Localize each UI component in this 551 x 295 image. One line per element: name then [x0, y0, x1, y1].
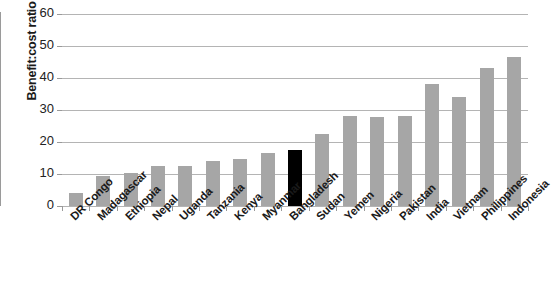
- gridline: [62, 78, 528, 79]
- y-axis-tick-mark: [57, 174, 62, 175]
- bar-vietnam: [452, 97, 466, 206]
- bar-nigeria: [370, 117, 384, 206]
- y-axis-line: [0, 12, 1, 206]
- x-axis-tick-mark: [473, 206, 474, 211]
- x-axis-tick-mark: [172, 206, 173, 211]
- x-axis-tick-mark: [117, 206, 118, 211]
- x-axis-tick-mark: [418, 206, 419, 211]
- x-axis-tick-mark: [254, 206, 255, 211]
- y-axis-tick-mark: [57, 46, 62, 47]
- y-axis-tick-label: 30: [14, 102, 54, 115]
- x-axis-tick-mark: [364, 206, 365, 211]
- y-axis-tick-mark: [57, 14, 62, 15]
- x-axis-tick-mark: [281, 206, 282, 211]
- y-axis-tick-mark: [57, 110, 62, 111]
- bar-madagascar: [96, 176, 110, 206]
- bar-ethiopia: [124, 173, 138, 206]
- x-axis-tick-mark: [89, 206, 90, 211]
- bar-myanmar: [261, 153, 275, 206]
- x-axis-tick-mark: [336, 206, 337, 211]
- y-axis-tick-label: 0: [14, 198, 54, 211]
- bar-sudan: [315, 134, 329, 206]
- x-axis-tick-mark: [199, 206, 200, 211]
- x-axis-tick-mark: [528, 206, 529, 211]
- gridline: [62, 206, 528, 207]
- bar-philippines: [480, 68, 494, 206]
- x-axis-tick-mark: [309, 206, 310, 211]
- bar-dr-congo: [69, 193, 83, 206]
- y-axis-tick-mark: [57, 142, 62, 143]
- bar-uganda: [178, 166, 192, 206]
- y-axis-tick-mark: [57, 78, 62, 79]
- x-axis-tick-mark: [501, 206, 502, 211]
- bar-india: [425, 84, 439, 206]
- bar-nepal: [151, 166, 165, 206]
- bar-indonesia: [507, 57, 521, 206]
- x-axis-tick-mark: [226, 206, 227, 211]
- bar-kenya: [233, 159, 247, 206]
- plot-area: [62, 14, 528, 206]
- y-axis-tick-label: 20: [14, 134, 54, 147]
- gridline: [62, 46, 528, 47]
- y-axis-tick-label: 10: [14, 166, 54, 179]
- y-axis-tick-label: 60: [14, 6, 54, 19]
- gridline: [62, 14, 528, 15]
- bar-bangladesh: [288, 150, 302, 206]
- x-axis-tick-mark: [391, 206, 392, 211]
- bar-pakistan: [398, 116, 412, 206]
- x-axis-tick-mark: [446, 206, 447, 211]
- bar-tanzania: [206, 161, 220, 206]
- y-axis-tick-label: 50: [14, 38, 54, 51]
- x-axis-tick-mark: [62, 206, 63, 211]
- bar-yemen: [343, 116, 357, 206]
- y-axis-tick-label: 40: [14, 70, 54, 83]
- x-axis-tick-mark: [144, 206, 145, 211]
